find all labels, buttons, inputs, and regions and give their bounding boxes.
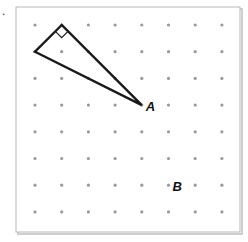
grid-dot — [87, 23, 90, 26]
dot-grid-diagram: AB — [0, 0, 248, 242]
grid-dot — [194, 157, 197, 160]
grid-dot — [60, 184, 63, 187]
grid-dot — [167, 184, 170, 187]
grid-dot — [114, 130, 117, 133]
grid-dot — [140, 50, 143, 53]
grid-dot — [114, 23, 117, 26]
label-a: A — [145, 99, 155, 114]
grid-dot — [87, 210, 90, 213]
grid-dot — [167, 50, 170, 53]
grid-dot — [87, 184, 90, 187]
grid-dot — [220, 23, 223, 26]
grid-dot — [140, 23, 143, 26]
grid-dot — [33, 77, 36, 80]
grid-dot — [140, 157, 143, 160]
grid-dot — [114, 184, 117, 187]
grid-dot — [33, 130, 36, 133]
grid-dot — [220, 157, 223, 160]
grid-dot — [194, 184, 197, 187]
grid-dot — [60, 50, 63, 53]
grid-dot — [167, 77, 170, 80]
grid-dot — [194, 23, 197, 26]
grid-dot — [140, 77, 143, 80]
grid-dot — [140, 130, 143, 133]
frame-border — [16, 7, 240, 232]
grid-dot — [220, 130, 223, 133]
grid-dot — [167, 104, 170, 107]
grid-dot — [114, 210, 117, 213]
grid-dot — [60, 157, 63, 160]
grid-dot — [194, 50, 197, 53]
grid-dot — [220, 77, 223, 80]
grid-dot — [87, 157, 90, 160]
grid-dot — [60, 104, 63, 107]
label-b: B — [173, 179, 182, 194]
grid-dot — [114, 50, 117, 53]
grid-dot — [194, 130, 197, 133]
grid-dot — [167, 130, 170, 133]
grid-dot — [60, 77, 63, 80]
grid-dot — [87, 104, 90, 107]
grid-dot — [220, 50, 223, 53]
grid-dot — [33, 210, 36, 213]
grid-dot — [167, 157, 170, 160]
grid-dot — [167, 23, 170, 26]
grid-dot — [87, 130, 90, 133]
grid-dot — [194, 104, 197, 107]
grid-dot — [114, 157, 117, 160]
grid-dot — [220, 210, 223, 213]
grid-dot — [167, 210, 170, 213]
grid-dot — [60, 130, 63, 133]
grid-dot — [140, 210, 143, 213]
grid-dot — [33, 184, 36, 187]
grid-dot — [220, 184, 223, 187]
grid-dot — [220, 104, 223, 107]
grid-dot — [140, 184, 143, 187]
grid-dot — [194, 77, 197, 80]
grid-dot — [33, 157, 36, 160]
grid-dot — [114, 104, 117, 107]
grid-dot — [33, 23, 36, 26]
grid-dot — [194, 210, 197, 213]
grid-dot — [60, 210, 63, 213]
grid-dot — [33, 104, 36, 107]
